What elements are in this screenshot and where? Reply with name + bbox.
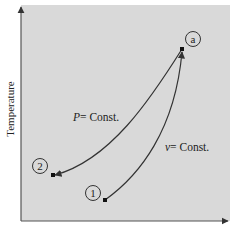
point-1-label: 1 <box>85 185 101 201</box>
p-const-text: = Const. <box>80 111 119 123</box>
v-const-label: v= Const. <box>165 141 209 153</box>
p-const-label: P= Const. <box>73 111 119 123</box>
point-a-label: a <box>185 31 201 47</box>
point-2-label: 2 <box>32 158 48 174</box>
point-a-marker <box>180 47 184 51</box>
point-1-marker <box>103 198 107 202</box>
y-axis-label: Temperature <box>4 69 16 149</box>
v-const-text: = Const. <box>170 141 209 153</box>
point-2-marker <box>51 173 55 177</box>
p-symbol: P <box>73 111 80 123</box>
diagram-figure: Temperature a 1 2 P= Const. v= Const. <box>0 0 230 229</box>
